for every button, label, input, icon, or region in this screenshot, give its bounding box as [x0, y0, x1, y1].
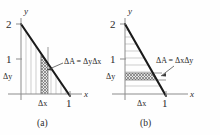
area-equation-b: ΔA = ΔxΔy — [156, 56, 193, 65]
figure-root: y x 2 1 Δy 1 Δx ΔA = ΔyΔx (a) — [0, 0, 220, 135]
x-axis-label-a: x — [83, 89, 88, 99]
y-tick-label-1-b: 1 — [110, 53, 116, 65]
leader-line-b — [161, 66, 174, 76]
panel-caption-b: (b) — [140, 118, 151, 129]
y-axis-label-a: y — [23, 6, 28, 16]
panel-a: y x 2 1 Δy 1 Δx ΔA = ΔyΔx (a) — [0, 0, 104, 135]
y-tick-label-2-a: 2 — [6, 18, 12, 30]
y-tick-label-1-a: 1 — [6, 53, 12, 65]
panel-caption-a: (a) — [37, 118, 48, 129]
delta-x-label-a: Δx — [38, 99, 47, 108]
leader-arrow-b — [161, 73, 166, 77]
area-equation-a: ΔA = ΔyΔx — [64, 57, 101, 66]
area-element-b — [125, 73, 174, 80]
delta-y-label-a: Δy — [3, 72, 12, 81]
y-axis-label-b: y — [127, 6, 132, 16]
x-tick-label-1-b: 1 — [162, 97, 168, 109]
panel-b: y x 2 1 Δy 1 Δx ΔA = ΔxΔy (b) — [104, 0, 220, 135]
delta-x-label-b: Δx — [137, 99, 146, 108]
delta-y-label-b: Δy — [106, 72, 115, 81]
y-tick-label-2-b: 2 — [110, 18, 116, 30]
x-tick-label-1-a: 1 — [66, 97, 72, 109]
x-axis-label-b: x — [189, 89, 194, 99]
